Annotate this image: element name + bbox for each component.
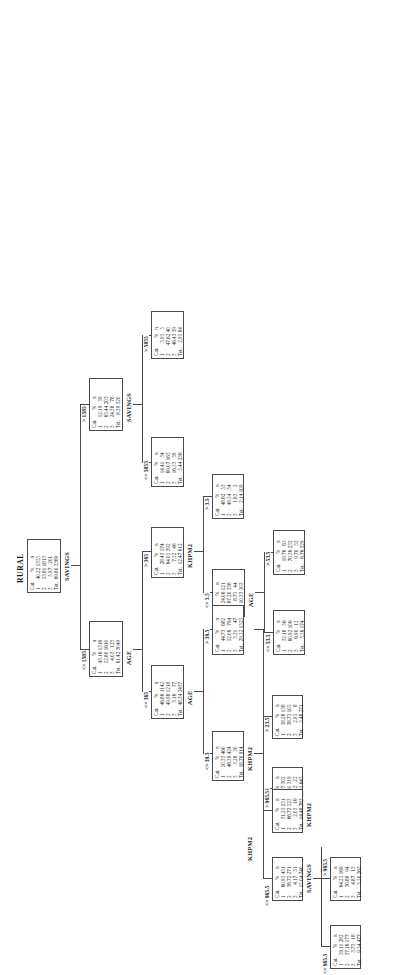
cell-pct: 10.33 — [238, 590, 244, 603]
cell-cat: Tot. — [115, 417, 121, 428]
cell-n: 174 — [299, 619, 305, 628]
edge-line — [321, 946, 330, 947]
cell-cat: Tot. — [115, 663, 121, 674]
edge-label-sav-gt9655: > 965.5 — [322, 858, 328, 877]
cell-pct: 18.70 — [238, 754, 244, 767]
split-var-age-gt395: KHPM2 — [246, 837, 253, 861]
node-table: Cat. % n 144.73682 252.06794 33.2147 Tot… — [214, 616, 244, 652]
cell-cat: Tot. — [238, 641, 244, 652]
edge-label-age-gt395: > 39.5 — [204, 629, 210, 645]
node-root-table: Cat. % n 140.221355 253.811813 35.97201 … — [29, 554, 59, 590]
cell-cat: Tot. — [238, 505, 244, 516]
edge-line — [263, 629, 264, 879]
cell-n: 271 — [298, 703, 304, 712]
node-table: Cat. % n 132.1856 260.92106 36.9012 Tot.… — [275, 619, 305, 652]
edge-line — [255, 592, 264, 593]
cell-n: 503 — [238, 581, 244, 590]
cell-cat: Tot. — [299, 641, 305, 652]
node-table: Cat. % n 143.161316 252.801610 34.03123 … — [91, 638, 121, 674]
edge-label-age-le395: <= 39.5 — [204, 751, 210, 771]
cell-pct: 3.56 — [299, 628, 305, 641]
cell-pct: 2.95 — [177, 332, 183, 345]
split-var-k2-le9655: SAVINGS — [305, 864, 312, 893]
cell-n: 643 — [298, 775, 304, 784]
split-var-khpm2-le35: AGE — [247, 593, 254, 607]
node-khpm2-gt-23-5: Cat. % n 158.28158 238.75105 32.958 Tot.… — [272, 695, 303, 739]
cell-pct: 61.42 — [115, 650, 121, 663]
cell-n: 320 — [115, 395, 121, 404]
cell-n: 109 — [238, 483, 244, 492]
cell-pct: 2.14 — [238, 492, 244, 505]
cell-n: 1523 — [238, 616, 244, 628]
edge-line — [80, 405, 81, 650]
edge-label-k2-le9655: <= 965.5 — [264, 885, 270, 907]
cell-pct: 5.50 — [356, 874, 362, 887]
cell-pct: 46.43 — [171, 332, 177, 345]
node-table: Cat. % n 112.1939 263.44203 324.3878 Tot… — [91, 395, 121, 428]
cell-cat: Tot. — [356, 955, 362, 966]
edge-line — [133, 404, 142, 405]
node-khpm2-gt-35: Cat. % n 148.6253 249.5454 31.832 Tot.2.… — [212, 474, 244, 519]
edge-line — [142, 552, 143, 692]
cell-n: 84 — [177, 326, 183, 333]
cell-n: 740 — [298, 865, 304, 874]
node-table: Cat. % n 15.955 247.6240 346.4339 Tot.2.… — [153, 326, 183, 357]
cell-cat: Tot. — [177, 705, 183, 716]
edge-label-sav-gt1585: > 1585 — [81, 405, 87, 423]
cell-pct: 9.54 — [356, 942, 362, 955]
cell-n: 39 — [171, 326, 177, 333]
edge-line — [142, 551, 151, 552]
cell-pct: 29.52 — [238, 628, 244, 641]
node-table: Cat. % n 158.28158 238.75105 32.958 Tot.… — [274, 703, 304, 736]
node-table: Cat. % n 128.43174 264.05392 37.5246 Tot… — [153, 542, 183, 575]
node-age-le-365: Cat. % n 146.861142 249.981218 33.1677 T… — [151, 665, 184, 719]
node-table: Cat. % n 131.25231 266.72523 32.0316 Tot… — [274, 797, 304, 830]
node-savings-le-5855: Cat. % n 114.4134 269.07163 316.5339 Tot… — [151, 437, 184, 487]
cell-cat: Tot. — [177, 473, 183, 484]
cell-cat: Tot. — [238, 767, 244, 778]
node-table: Cat. % n 119.7665 270.36232 39.7032 Tot.… — [275, 539, 305, 572]
cell-n: 329 — [299, 539, 305, 548]
root-title: RURAL — [16, 553, 25, 583]
split-var-root: SAVINGS — [63, 552, 70, 581]
node-table: Cat. % n 114.4134 269.07163 316.5339 Tot… — [153, 451, 183, 484]
split-var-age-le395: KHPM2 — [246, 747, 253, 771]
cell-cat: Tot. — [298, 819, 304, 830]
edge-label-sav-le5855: <= 5855 — [143, 460, 149, 481]
edge-label-sav-le9655: <= 965.5 — [322, 953, 328, 975]
edge-label-khpm2-gt35: > 3.5 — [204, 497, 210, 511]
node-root: Cat. % n 140.221355 253.811813 35.97201 … — [27, 539, 61, 593]
cell-n: 263 — [356, 865, 362, 874]
node-table: Cat. % n 160.95451 236.72271 34.1731 Tot… — [274, 865, 304, 898]
cell-n: 783 — [298, 797, 304, 806]
cell-pct: 48.34 — [177, 692, 183, 705]
node-age-gt-39-5: Cat. % n 144.73682 252.06794 33.2147 Tot… — [212, 605, 244, 655]
node-savings-gt-1585: Cat. % n 112.1939 263.44203 324.3878 Tot… — [89, 378, 123, 431]
cell-n: 236 — [177, 451, 183, 460]
edge-label-sav-le1585: <= 1585 — [81, 650, 87, 671]
edge-line — [263, 810, 272, 811]
edge-label-khpm2-le35: <= 3.5 — [204, 592, 210, 609]
edge-line — [71, 565, 80, 566]
node-khpm2-gt-965-5: Cat. % n 131.25231 266.72523 32.0316 Tot… — [272, 789, 303, 833]
node-savings-gt-5855: Cat. % n 15.955 247.6240 346.4339 Tot.2.… — [151, 311, 184, 359]
split-var-age-le365: AGE — [186, 691, 193, 705]
cell-n: 3049 — [115, 638, 121, 650]
cell-n: 3369 — [53, 554, 59, 566]
edge-label-age-le365: <= 365 — [143, 691, 149, 709]
node-savings-le-1585: Cat. % n 143.161316 252.801610 34.03123 … — [89, 621, 123, 677]
cell-pct: 16.53 — [171, 460, 177, 473]
cell-pct: 12.47 — [177, 551, 183, 564]
cell-n: 612 — [177, 542, 183, 551]
edge-line — [194, 551, 203, 552]
cell-pct: 5.48 — [298, 712, 304, 725]
edge-line — [203, 497, 204, 593]
edge-label-age-gt535: > 53.5 — [265, 551, 271, 567]
edge-label-k2-gt9655: > 965.5 — [264, 790, 270, 809]
node-age-gt-365: Cat. % n 128.43174 264.05392 37.5246 Tot… — [151, 527, 184, 578]
cell-pct: 5.44 — [177, 460, 183, 473]
node-age-gt-53-5: Cat. % n 119.7665 270.36232 39.7032 Tot.… — [273, 530, 305, 575]
node-age-le-53-5: Cat. % n 132.1856 260.92106 36.9012 Tot.… — [273, 610, 305, 655]
cell-cat: Tot. — [177, 345, 183, 356]
edge-label-sav-gt5855: > 5855 — [143, 335, 149, 353]
